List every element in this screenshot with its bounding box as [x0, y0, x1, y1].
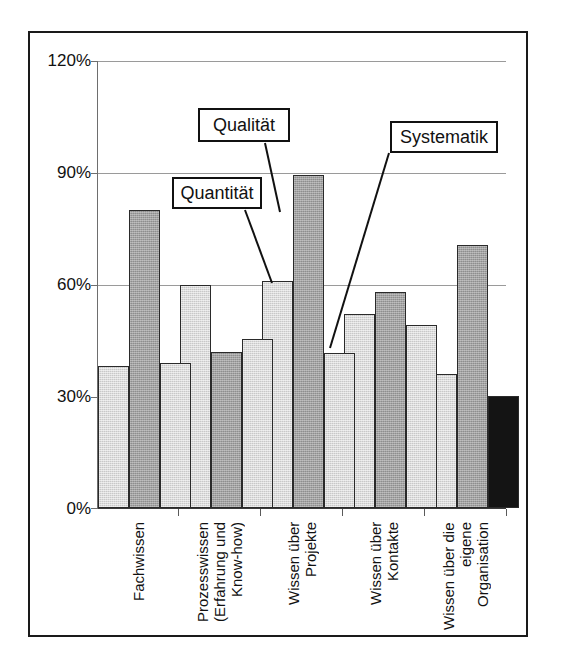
y-axis-tick-label-30: 30%	[21, 388, 91, 405]
y-axis-tick-label-90: 90%	[21, 164, 91, 181]
callout-systematik: Systematik	[390, 121, 498, 153]
x-axis-label-1: Fachwissen	[130, 522, 148, 632]
y-axis-labels: 120% 90% 60% 30% 0%	[21, 0, 91, 658]
y-axis-tick-label-60: 60%	[21, 276, 91, 293]
x-axis-label-2: Prozesswissen (Erfahrung und Know-how)	[194, 522, 248, 632]
y-axis-tick-label-120: 120%	[21, 52, 91, 69]
callout-qualitaet: Qualität	[198, 108, 290, 142]
y-axis-tick-label-0: 0%	[21, 500, 91, 517]
x-axis-label-5: Wissen über die eigene Organisation	[440, 522, 494, 632]
x-axis-label-3: Wissen über Projekte	[285, 522, 321, 632]
x-axis-label-4: Wissen über Kontakte	[367, 522, 403, 632]
callout-quantitaet: Quantität	[172, 177, 262, 209]
